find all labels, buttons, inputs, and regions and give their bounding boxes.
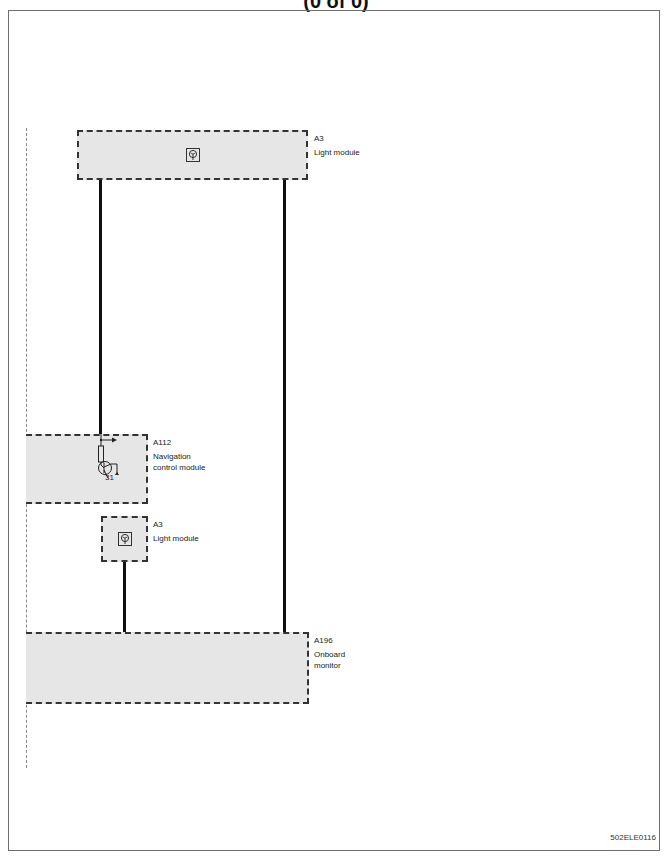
wire-left-upper (99, 180, 102, 436)
pin-31-label: 31 (105, 473, 114, 482)
module-name-line2: monitor (314, 660, 345, 671)
light-bulb-icon (118, 532, 132, 546)
module-id: A3 (153, 519, 199, 530)
module-name: Light module (153, 534, 199, 543)
light-bulb-icon (186, 148, 200, 162)
module-a112-label: A112 Navigation control module (153, 437, 205, 473)
wire-left-lower (123, 562, 126, 633)
module-id: A3 (314, 133, 360, 144)
module-a3-middle-label: A3 Light module (153, 519, 199, 544)
document-code: 502ELE0116 (610, 833, 656, 842)
module-a3-top-label: A3 Light module (314, 133, 360, 158)
module-a196[interactable] (26, 632, 309, 704)
module-name: Light module (314, 148, 360, 157)
module-id: A196 (314, 635, 345, 646)
module-a196-label: A196 Onboard monitor (314, 635, 345, 671)
wire-right (283, 180, 286, 633)
module-name-line1: Onboard (314, 649, 345, 660)
module-a3-top[interactable] (77, 130, 308, 180)
module-name-line2: control module (153, 462, 205, 473)
module-name-line1: Navigation (153, 451, 205, 462)
module-a3-middle[interactable] (101, 516, 148, 562)
module-id: A112 (153, 437, 205, 448)
